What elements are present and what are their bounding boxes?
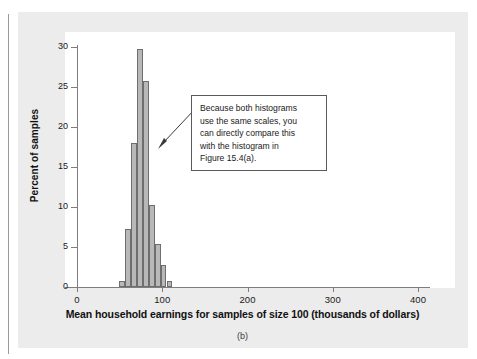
annotation-text: Because both histograms use the same sca… — [200, 102, 319, 165]
figure-caption: (b) — [20, 331, 465, 341]
histogram-bars — [0, 0, 477, 359]
y-axis-title: Percent of samples — [29, 76, 40, 236]
histogram-bar — [167, 281, 173, 287]
x-axis-title: Mean household earnings for samples of s… — [20, 308, 465, 320]
annotation-callout: Because both histograms use the same sca… — [191, 95, 327, 171]
